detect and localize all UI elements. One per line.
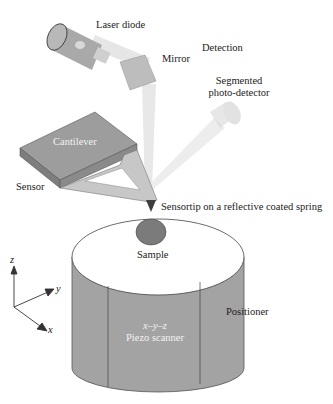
label-piezo-xyz: x–y–z: [112, 320, 198, 332]
xyz-axes-icon: [11, 266, 54, 331]
label-sensor: Sensor: [16, 181, 45, 193]
label-segmented-line1: Segmented: [198, 75, 280, 87]
label-sensortip: Sensortip on a reflective coated spring: [161, 201, 322, 213]
label-positioner: Positioner: [226, 306, 269, 318]
label-detection: Detection: [202, 42, 243, 54]
piezo-scanner-cylinder: [72, 219, 244, 392]
label-mirror: Mirror: [162, 53, 190, 65]
label-sample: Sample: [137, 249, 169, 261]
label-laser-diode: Laser diode: [96, 19, 145, 31]
sample-icon: [136, 219, 166, 245]
label-piezo-scanner: x–y–z Piezo scanner: [112, 320, 198, 344]
axis-label-x: x: [48, 324, 53, 336]
label-segmented-photodetector: Segmented photo-detector: [198, 75, 280, 99]
label-piezo-name: Piezo scanner: [112, 332, 198, 344]
label-segmented-line2: photo-detector: [198, 87, 280, 99]
axis-label-z: z: [10, 254, 14, 266]
axis-label-y: y: [56, 283, 61, 295]
label-cantilever: Cantilever: [53, 136, 97, 148]
sensor-tip-icon: [146, 200, 156, 212]
laser-beam-reflected: [146, 118, 225, 190]
afm-diagram: Laser diode Mirror Detection Segmented p…: [0, 0, 333, 404]
